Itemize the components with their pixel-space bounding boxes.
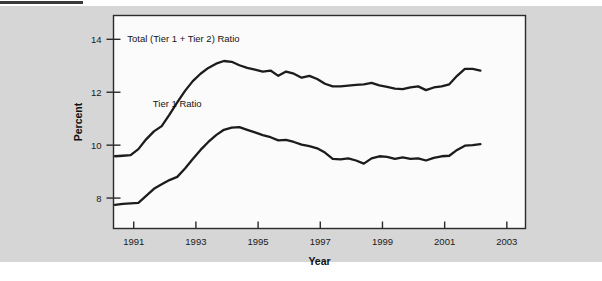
x-axis-tick-label: 1993 bbox=[185, 236, 206, 247]
x-axis-tick-label: 2003 bbox=[496, 236, 517, 247]
y-axis-title: Percent bbox=[72, 102, 84, 141]
plot-area-background bbox=[114, 16, 526, 229]
x-axis-tick-label: 1997 bbox=[310, 236, 331, 247]
y-axis-tick-label: 12 bbox=[91, 87, 102, 98]
x-axis-tick-label: 2001 bbox=[434, 236, 455, 247]
x-axis-title: Year bbox=[308, 255, 330, 267]
y-axis-tick-label: 8 bbox=[96, 193, 101, 204]
figure-container: 81012141991199319951997199920012003YearP… bbox=[0, 0, 602, 281]
series-annotation-tier1-ratio: Tier 1 Ratio bbox=[153, 98, 202, 109]
chart-svg: 81012141991199319951997199920012003YearP… bbox=[0, 0, 602, 281]
y-axis-tick-label: 10 bbox=[91, 140, 102, 151]
x-axis-tick-label: 1991 bbox=[123, 236, 144, 247]
y-axis-tick-label: 14 bbox=[91, 34, 102, 45]
series-annotation-total-ratio: Total (Tier 1 + Tier 2) Ratio bbox=[127, 33, 239, 44]
x-axis-tick-label: 1995 bbox=[248, 236, 269, 247]
x-axis-tick-label: 1999 bbox=[372, 236, 393, 247]
